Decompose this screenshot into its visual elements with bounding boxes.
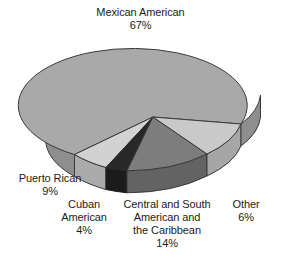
slice-label-puerto-rican: Puerto Rican 9% bbox=[2, 172, 98, 198]
slice-label-puerto-rican-percent: 9% bbox=[2, 185, 98, 198]
slice-label-cuban-american: Cuban American 4% bbox=[48, 198, 120, 237]
slice-label-central-south-percent: 14% bbox=[112, 237, 222, 250]
slice-label-other-percent: 6% bbox=[218, 211, 274, 224]
slice-label-central-south-line3: the Caribbean bbox=[112, 224, 222, 237]
slice-side-cuban-american bbox=[106, 168, 127, 193]
slice-label-central-south: Central and South American and the Carib… bbox=[112, 198, 222, 250]
slice-label-central-south-line2: American and bbox=[112, 211, 222, 224]
slice-label-other: Other 6% bbox=[218, 198, 274, 224]
slice-label-cuban-american-line1: Cuban bbox=[48, 198, 120, 211]
slice-label-central-south-line1: Central and South bbox=[112, 198, 222, 211]
pie-chart-figure: Mexican American 67% Puerto Rican 9% Cub… bbox=[0, 0, 281, 271]
slice-label-puerto-rican-line1: Puerto Rican bbox=[2, 172, 98, 185]
slice-label-mexican-american-percent: 67% bbox=[0, 19, 281, 32]
slice-label-mexican-american: Mexican American 67% bbox=[0, 6, 281, 32]
slice-label-mexican-american-line1: Mexican American bbox=[0, 6, 281, 19]
slice-label-cuban-american-percent: 4% bbox=[48, 224, 120, 237]
slice-label-other-line1: Other bbox=[218, 198, 274, 211]
slice-label-cuban-american-line2: American bbox=[48, 211, 120, 224]
